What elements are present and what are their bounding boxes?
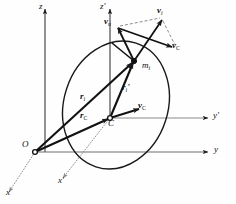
axis-label-x: x [6,188,10,197]
r-c-subscript: C [84,115,88,121]
v-i-subscript: i [161,10,163,16]
point-label-origin: O [22,140,29,149]
point-label-center-of-mass: C [108,119,114,128]
r-i-prime-symbol: r [122,82,126,92]
axis-label-z: z [39,2,43,11]
point-particle-marker [131,58,136,63]
dash-v-rel-to-v-i [120,18,160,26]
r-i-subscript: i [84,96,86,102]
v-rel-subscript: u [108,21,111,27]
r-c-symbol: r [80,110,84,120]
vector-label-v-c-at-center: vC [138,101,146,110]
vector-cross-stroke [112,43,134,61]
vector-v-i [134,20,162,61]
v-c-mid-subscript: C [142,105,146,111]
vector-label-v-i: vi [157,6,163,15]
r-i-prime-mark: ' [127,82,130,92]
axis-label-z-prime: z' [100,2,105,11]
axis-label-y-prime: y' [213,111,219,120]
vector-v-c-at-center [110,109,139,118]
position-vectors [35,63,133,152]
vector-label-r-c: rC [80,111,88,120]
particle-subscript: i [149,65,151,71]
vector-diagram-figure: z z' y' y x x' O C mi ri rC ri' vu vi vC… [0,0,236,204]
r-i-prime-subscript: i [126,87,128,93]
vector-label-r-i: ri [80,92,85,101]
v-c-top-subscript: C [176,45,180,51]
x-axis-line [9,152,35,192]
particle-symbol: m [142,60,149,70]
point-label-particle-mass: mi [142,61,150,70]
axis-label-y: y [214,145,218,154]
fixed-axes [9,9,208,192]
vector-label-r-i-prime: ri' [122,83,130,92]
r-i-symbol: r [80,91,84,101]
vector-label-v-c-translated: vC [172,41,180,50]
diagram-canvas [0,0,236,204]
vector-r-i [35,63,132,152]
point-origin-marker [33,150,38,155]
vector-label-v-rel: vu [104,17,111,26]
axis-label-x-prime: x' [58,176,64,185]
